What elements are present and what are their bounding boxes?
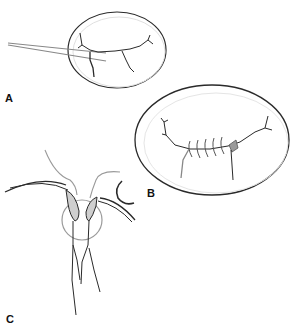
- panel-c-illustration: [5, 150, 135, 315]
- panel-label-c: C: [6, 313, 14, 325]
- panel-label-a: A: [5, 92, 13, 104]
- panel-a-illustration: [8, 12, 166, 88]
- panel-label-b: B: [147, 187, 155, 199]
- medical-illustration-figure: A B C: [0, 0, 295, 330]
- panel-b-illustration: [135, 85, 289, 195]
